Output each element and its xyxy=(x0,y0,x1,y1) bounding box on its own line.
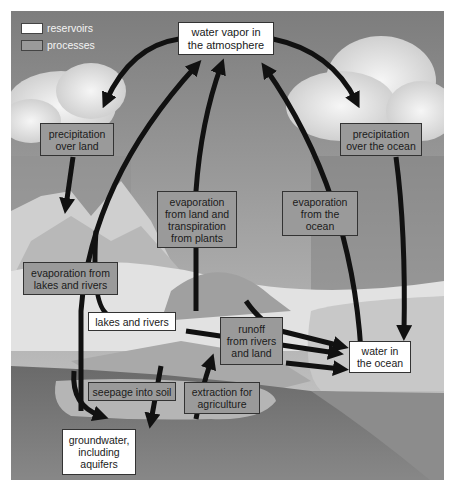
process-runoff-line2: from rivers xyxy=(227,335,277,347)
reservoir-ocean-line1: water in xyxy=(357,345,403,357)
process-evap-lakes-line2: lakes and rivers xyxy=(31,279,110,291)
process-precip-land-line2: over land xyxy=(49,140,106,152)
water-cycle-diagram: reservoirs processes water vapor inthe a… xyxy=(11,11,444,490)
process-evap-ocean-line1: evaporation xyxy=(293,196,348,208)
process-precip-land-line1: precipitation xyxy=(49,128,106,140)
process-extraction-agriculture: extraction foragriculture xyxy=(184,382,260,414)
process-seepage-line1: seepage into soil xyxy=(93,386,172,398)
legend-swatch-processes xyxy=(21,40,43,51)
process-evap-lakes-line1: evaporation from xyxy=(31,267,110,279)
process-precipitation-over-land: precipitationover land xyxy=(40,123,114,156)
reservoir-groundwater-line1: groundwater, xyxy=(69,434,130,446)
process-evaporation-lakes-rivers: evaporation fromlakes and rivers xyxy=(23,262,118,295)
landscape-background xyxy=(11,11,444,490)
process-extraction-line1: extraction for xyxy=(192,386,253,398)
process-precip-ocean-line1: precipitation xyxy=(346,128,415,140)
process-evap-land-line3: transpiration xyxy=(165,220,229,232)
legend-processes: processes xyxy=(21,39,95,51)
process-evaporation-land-transpiration: evaporationfrom land andtranspirationfro… xyxy=(157,191,237,248)
reservoir-atmosphere-line2: the atmosphere xyxy=(188,39,264,52)
reservoir-lakes-rivers: lakes and rivers xyxy=(88,312,176,331)
reservoir-atmosphere: water vapor inthe atmosphere xyxy=(178,22,274,55)
process-extraction-line2: agriculture xyxy=(192,398,253,410)
reservoir-ocean-line2: the ocean xyxy=(357,357,403,369)
reservoir-groundwater-line3: aquifers xyxy=(69,458,130,470)
reservoir-atmosphere-line1: water vapor in xyxy=(188,26,264,39)
legend-reservoirs: reservoirs xyxy=(21,22,93,34)
process-precip-ocean-line2: over the ocean xyxy=(346,140,415,152)
process-seepage-into-soil: seepage into soil xyxy=(88,382,176,401)
process-evap-land-line4: from plants xyxy=(165,232,229,244)
legend-swatch-reservoirs xyxy=(21,23,43,34)
legend-label-processes: processes xyxy=(47,39,95,51)
process-runoff: runofffrom riversand land xyxy=(220,317,283,365)
reservoir-groundwater-line2: including xyxy=(69,446,130,458)
legend-label-reservoirs: reservoirs xyxy=(47,22,93,34)
process-evap-land-line1: evaporation xyxy=(165,196,229,208)
process-runoff-line3: and land xyxy=(227,347,277,359)
reservoir-lakes-line1: lakes and rivers xyxy=(95,316,169,328)
process-evaporation-ocean: evaporationfrom theocean xyxy=(282,191,358,236)
process-evap-land-line2: from land and xyxy=(165,208,229,220)
process-evap-ocean-line2: from the xyxy=(293,208,348,220)
process-precipitation-over-ocean: precipitationover the ocean xyxy=(340,123,422,156)
process-runoff-line1: runoff xyxy=(227,323,277,335)
process-evap-ocean-line3: ocean xyxy=(293,220,348,232)
reservoir-groundwater: groundwater,includingaquifers xyxy=(62,429,136,475)
reservoir-ocean: water inthe ocean xyxy=(349,341,411,373)
